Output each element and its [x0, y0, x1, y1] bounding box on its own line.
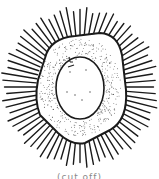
spore-illustration [0, 0, 159, 179]
figure-caption: (cut off) [0, 171, 159, 179]
inner-nucleus [56, 57, 104, 119]
